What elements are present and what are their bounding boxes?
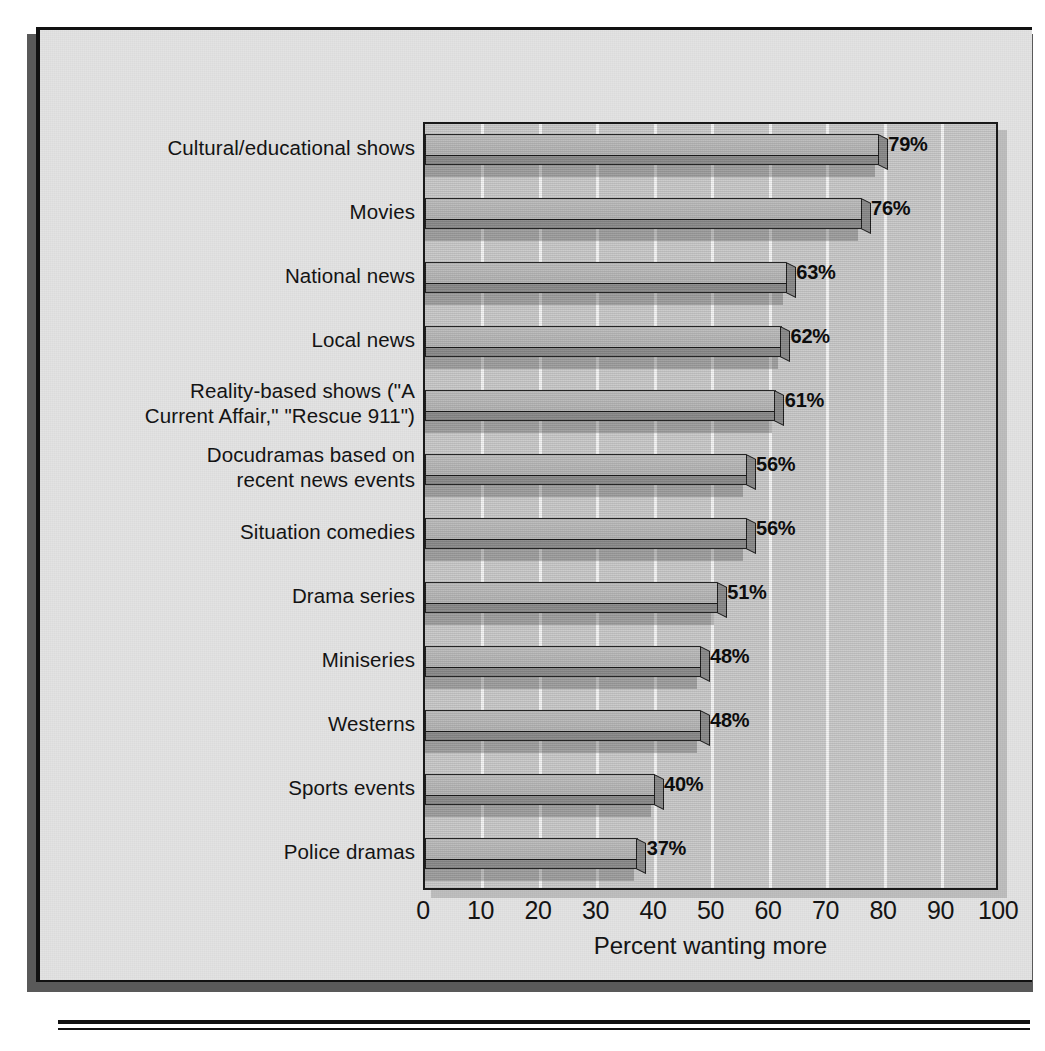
- bar-end-cap: [746, 454, 756, 490]
- figure-panel: Cultural/educational showsMoviesNational…: [0, 0, 1045, 1051]
- bar-edge: [425, 220, 862, 229]
- category-label-line: Local news: [95, 327, 415, 352]
- bar-row: [425, 390, 788, 434]
- x-tick-label: 20: [525, 896, 552, 925]
- bar-row: [425, 454, 759, 498]
- bar-face: [425, 262, 787, 284]
- bar-face: [425, 582, 718, 604]
- x-tick-label: 80: [870, 896, 897, 925]
- category-label: Sports events: [95, 775, 415, 800]
- bar-value-label: 63%: [796, 261, 835, 284]
- x-tick-label: 60: [755, 896, 782, 925]
- bar-face: [425, 518, 747, 540]
- bar-edge: [425, 156, 879, 165]
- category-label-line: Miniseries: [95, 647, 415, 672]
- category-label: Situation comedies: [95, 519, 415, 544]
- bar-row: [425, 646, 713, 690]
- category-label: Drama series: [95, 583, 415, 608]
- chart-card: Cultural/educational showsMoviesNational…: [40, 30, 1032, 980]
- bar-row: [425, 518, 759, 562]
- x-tick-label: 10: [467, 896, 494, 925]
- gridline-80: [884, 124, 887, 888]
- x-tick-label: 30: [582, 896, 609, 925]
- bar-face: [425, 134, 879, 156]
- bar-value-label: 56%: [756, 453, 795, 476]
- bar-value-label: 62%: [791, 325, 830, 348]
- bar-value-label: 48%: [710, 645, 749, 668]
- bar-value-label: 40%: [664, 773, 703, 796]
- bar-value-label: 61%: [785, 389, 824, 412]
- category-label-line: Cultural/educational shows: [95, 135, 415, 160]
- category-label-line: Westerns: [95, 711, 415, 736]
- footer-rule-bottom: [58, 1028, 1030, 1030]
- bar-end-cap: [786, 262, 796, 298]
- category-label-line: Movies: [95, 199, 415, 224]
- bar-end-cap: [717, 582, 727, 618]
- category-label: Miniseries: [95, 647, 415, 672]
- bar-end-cap: [861, 198, 871, 234]
- bar-face: [425, 198, 862, 220]
- bar-row: [425, 710, 713, 754]
- bar-end-cap: [774, 390, 784, 426]
- category-label: Movies: [95, 199, 415, 224]
- plot-area: [423, 122, 998, 890]
- category-label-line: Docudramas based on: [95, 442, 415, 467]
- category-label-line: National news: [95, 263, 415, 288]
- x-tick-label: 100: [978, 896, 1018, 925]
- x-tick-label: 40: [640, 896, 667, 925]
- bar-edge: [425, 348, 782, 357]
- category-label: Cultural/educational shows: [95, 135, 415, 160]
- category-label-line: recent news events: [95, 467, 415, 492]
- bar-value-label: 79%: [888, 133, 927, 156]
- bar-edge: [425, 540, 747, 549]
- bar-edge: [425, 604, 718, 613]
- bar-edge: [425, 668, 701, 677]
- category-label-line: Sports events: [95, 775, 415, 800]
- x-tick-label: 90: [927, 896, 954, 925]
- bar-value-label: 37%: [647, 837, 686, 860]
- category-label: Docudramas based onrecent news events: [95, 442, 415, 492]
- category-label-line: Situation comedies: [95, 519, 415, 544]
- bar-value-label: 51%: [727, 581, 766, 604]
- bar-row: [425, 198, 874, 242]
- bar-face: [425, 838, 638, 860]
- category-label-line: Reality-based shows ("A: [95, 378, 415, 403]
- category-label-line: Police dramas: [95, 839, 415, 864]
- bar-row: [425, 582, 730, 626]
- bar-value-label: 56%: [756, 517, 795, 540]
- category-label: Reality-based shows ("ACurrent Affair," …: [95, 378, 415, 428]
- bar-end-cap: [878, 134, 888, 170]
- bar-face: [425, 774, 655, 796]
- x-axis-ticks: 0102030405060708090100: [423, 896, 998, 930]
- bar-end-cap: [780, 326, 790, 362]
- bar-row: [425, 262, 799, 306]
- bar-value-label: 76%: [871, 197, 910, 220]
- x-axis-title: Percent wanting more: [423, 932, 998, 960]
- bar-row: [425, 838, 650, 882]
- x-tick-label: 0: [416, 896, 429, 925]
- bar-face: [425, 390, 776, 412]
- bar-value-label: 48%: [710, 709, 749, 732]
- bar-edge: [425, 796, 655, 805]
- bar-end-cap: [746, 518, 756, 554]
- bar-face: [425, 454, 747, 476]
- bar-face: [425, 326, 782, 348]
- category-label-column: Cultural/educational showsMoviesNational…: [90, 122, 415, 890]
- bar-end-cap: [700, 646, 710, 682]
- category-label-line: Drama series: [95, 583, 415, 608]
- bar-end-cap: [654, 774, 664, 810]
- bar-row: [425, 326, 794, 370]
- category-label: Police dramas: [95, 839, 415, 864]
- bar-end-cap: [700, 710, 710, 746]
- footer-rule-top: [58, 1020, 1030, 1024]
- category-label: National news: [95, 263, 415, 288]
- bar-end-cap: [636, 838, 646, 874]
- bar-row: [425, 774, 667, 818]
- bar-edge: [425, 860, 638, 869]
- bar-edge: [425, 476, 747, 485]
- bar-edge: [425, 412, 776, 421]
- category-label-line: Current Affair," "Rescue 911"): [95, 403, 415, 428]
- bar-face: [425, 646, 701, 668]
- bar-row: [425, 134, 891, 178]
- bar-edge: [425, 732, 701, 741]
